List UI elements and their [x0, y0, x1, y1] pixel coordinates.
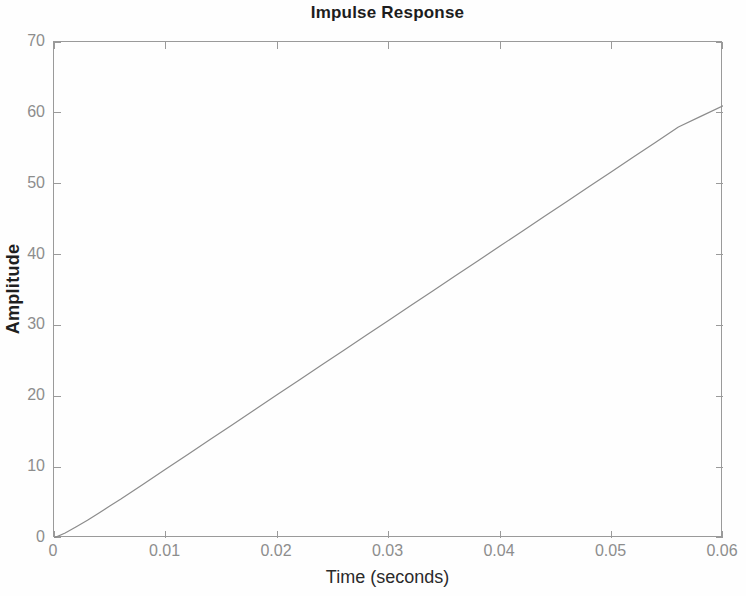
data-series-group	[54, 106, 723, 538]
x-tick-label: 0.05	[571, 542, 651, 560]
x-tick-label: 0.03	[348, 542, 428, 560]
y-tick-label: 30	[1, 315, 45, 333]
x-tick-label: 0	[13, 542, 93, 560]
x-axis-label: Time (seconds)	[53, 566, 722, 588]
plot-area	[53, 41, 722, 537]
y-tick-label: 70	[1, 32, 45, 50]
x-tick-label: 0.06	[682, 542, 746, 560]
plot-svg	[54, 42, 723, 538]
y-tick-label: 10	[1, 457, 45, 475]
y-tick-label: 60	[1, 103, 45, 121]
figure-canvas: Impulse Response Amplitude 0102030405060…	[0, 0, 746, 596]
y-tick-label: 40	[1, 245, 45, 263]
chart-title: Impulse Response	[53, 2, 722, 24]
tick-marks-group	[54, 42, 723, 538]
y-tick-label: 20	[1, 386, 45, 404]
x-tick-label: 0.01	[125, 542, 205, 560]
x-tick-label: 0.02	[236, 542, 316, 560]
series-line	[54, 106, 723, 538]
y-tick-label: 50	[1, 174, 45, 192]
x-tick-label: 0.04	[459, 542, 539, 560]
